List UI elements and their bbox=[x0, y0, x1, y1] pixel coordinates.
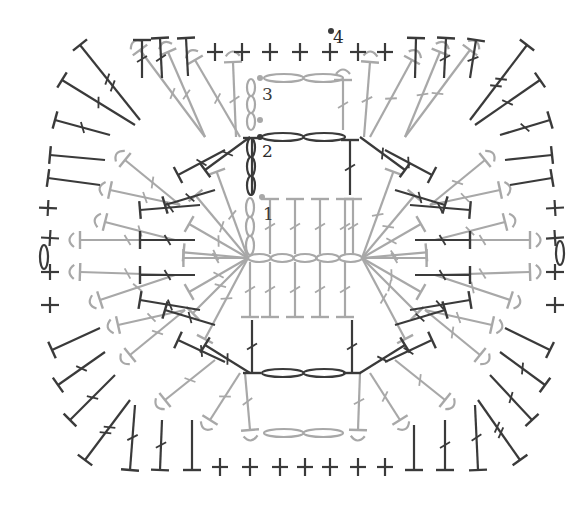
dc-top-bar bbox=[535, 73, 545, 88]
post-arc-icon bbox=[496, 319, 502, 333]
chain-space-icon bbox=[304, 429, 344, 437]
turning-chain-icon bbox=[247, 113, 255, 130]
hdc-stitch-icon bbox=[415, 38, 416, 78]
dc-top-bar bbox=[224, 62, 242, 63]
foundation-chain-icon bbox=[339, 254, 362, 262]
stitch-slash bbox=[100, 432, 112, 433]
stitch-slash bbox=[152, 177, 154, 189]
dc-top-bar bbox=[202, 415, 217, 425]
post-arc-icon bbox=[351, 436, 365, 441]
chain-space-icon bbox=[264, 429, 304, 437]
tr-top-bar bbox=[73, 39, 87, 50]
dc-top-bar bbox=[404, 56, 420, 65]
turning-chain-icon bbox=[246, 217, 254, 236]
dc-top-bar bbox=[80, 263, 81, 281]
stitch-slash bbox=[417, 94, 429, 96]
tr-top-bar bbox=[520, 40, 534, 51]
hdc-stitch-icon bbox=[186, 38, 188, 76]
round-label-4: 4 bbox=[333, 29, 344, 46]
sc-stitch-icon bbox=[50, 230, 51, 246]
dc-top-bar bbox=[428, 332, 436, 348]
dc-top-bar bbox=[174, 167, 182, 183]
dc-top-bar bbox=[197, 335, 213, 343]
dc-top-bar bbox=[139, 291, 142, 309]
tr-stitch-icon bbox=[478, 400, 520, 460]
dc-top-bar bbox=[469, 470, 487, 471]
post-arc-icon bbox=[108, 319, 114, 333]
hdc-top-bar bbox=[47, 169, 49, 187]
hdc-top-bar bbox=[551, 146, 553, 164]
dc-top-bar bbox=[174, 332, 182, 348]
dc-top-bar bbox=[159, 393, 170, 407]
tr-top-bar bbox=[513, 455, 528, 465]
post-arc-icon bbox=[336, 70, 350, 75]
dc-top-bar bbox=[530, 263, 531, 281]
post-arc-icon bbox=[244, 435, 258, 440]
post-arc-icon bbox=[445, 398, 454, 409]
dc-top-bar bbox=[151, 38, 169, 39]
hdc-stitch-icon bbox=[505, 155, 552, 160]
dc-top-bar bbox=[474, 348, 485, 362]
hdc-top-bar bbox=[546, 342, 554, 358]
round-label-3: 3 bbox=[262, 86, 273, 103]
foundation-chain-icon bbox=[294, 254, 317, 262]
round-label-2: 2 bbox=[262, 143, 273, 160]
dc-top-bar bbox=[361, 61, 379, 62]
dc-top-bar bbox=[57, 72, 66, 87]
hdc-top-bar bbox=[177, 38, 195, 39]
dc-top-bar bbox=[119, 153, 130, 167]
dc-top-bar bbox=[349, 430, 367, 431]
dc-top-bar bbox=[416, 284, 425, 300]
dc-top-bar bbox=[540, 378, 551, 393]
hdc-stitch-icon bbox=[505, 328, 550, 350]
post-arc-icon bbox=[513, 295, 520, 308]
dc-top-bar bbox=[479, 153, 490, 167]
post-arc-icon bbox=[131, 40, 142, 49]
dc-top-bar bbox=[133, 45, 147, 56]
stitch-slash bbox=[495, 78, 507, 79]
chain-space-icon bbox=[304, 369, 346, 377]
sc-stitch-icon bbox=[555, 200, 556, 216]
stitch-slash bbox=[471, 282, 474, 293]
foundation-chain-icon bbox=[316, 254, 339, 262]
round-label-1: 1 bbox=[263, 206, 274, 223]
sc-stitch-icon bbox=[48, 200, 49, 216]
hdc-top-bar bbox=[551, 169, 554, 187]
post-arc-icon bbox=[155, 398, 164, 409]
dc-top-bar bbox=[469, 291, 472, 309]
tr-top-bar bbox=[78, 455, 92, 466]
stitch-slash bbox=[408, 157, 409, 169]
start-marker-dot bbox=[257, 75, 263, 81]
stitch-slash bbox=[432, 93, 444, 94]
dc-top-bar bbox=[437, 38, 455, 39]
dc-top-bar bbox=[185, 284, 194, 300]
post-arc-icon bbox=[536, 233, 541, 247]
foundation-chain-icon bbox=[271, 254, 294, 262]
post-arc-icon bbox=[115, 151, 124, 162]
sc-stitch-icon bbox=[554, 230, 555, 246]
stitch-slash bbox=[105, 74, 109, 85]
stitch-slash bbox=[372, 214, 383, 216]
dc-top-bar bbox=[139, 201, 140, 219]
chain-space-icon bbox=[304, 133, 346, 141]
side-chain-icon bbox=[556, 241, 564, 265]
dc-top-bar bbox=[187, 55, 203, 64]
dark-rounds-layer bbox=[39, 28, 564, 476]
dc-top-bar bbox=[241, 429, 259, 431]
stitch-slash bbox=[490, 85, 502, 86]
dc-top-bar bbox=[428, 167, 436, 183]
hdc-top-bar bbox=[49, 146, 51, 164]
dc-top-bar bbox=[416, 216, 425, 232]
post-arc-icon bbox=[536, 265, 541, 279]
post-arc-icon bbox=[468, 40, 479, 49]
chain-space-icon bbox=[264, 74, 304, 82]
dc-top-bar bbox=[53, 378, 63, 393]
chain-space-icon bbox=[262, 133, 304, 141]
dc-top-bar bbox=[124, 348, 135, 362]
post-arc-icon bbox=[70, 233, 75, 247]
dc-top-bar bbox=[121, 469, 139, 470]
stitch-slash bbox=[382, 148, 383, 160]
post-arc-icon bbox=[509, 214, 515, 228]
dc-top-bar bbox=[397, 335, 413, 343]
post-arc-icon bbox=[397, 421, 409, 429]
